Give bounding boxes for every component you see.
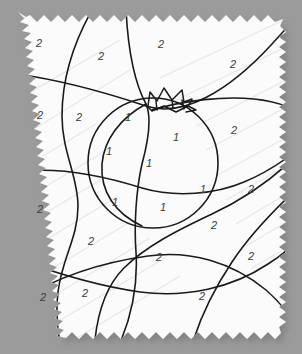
worksheet-canvas: 22222211211122112222222: [0, 0, 302, 354]
region-number: 2: [229, 58, 236, 70]
region-number: 2: [157, 38, 164, 50]
region-number: 1: [200, 183, 206, 195]
region-number: 1: [125, 111, 131, 123]
region-number: 2: [97, 50, 104, 62]
region-number: 1: [106, 145, 112, 157]
region-number: 2: [155, 251, 162, 263]
region-number: 2: [247, 250, 254, 262]
region-number: 1: [146, 157, 152, 169]
region-number: 2: [230, 124, 237, 136]
region-number: 2: [247, 183, 254, 195]
region-number: 2: [198, 290, 205, 302]
region-number: 1: [112, 196, 118, 208]
region-number: 2: [75, 111, 82, 123]
region-number: 2: [87, 235, 94, 247]
region-number: 2: [36, 109, 43, 121]
region-number: 1: [173, 131, 179, 143]
region-number: 2: [39, 291, 46, 303]
coloring-worksheet: 22222211211122112222222: [0, 0, 302, 354]
region-number: 1: [160, 201, 166, 213]
region-number: 2: [210, 219, 217, 231]
region-number: 2: [35, 37, 42, 49]
region-number: 2: [81, 287, 88, 299]
region-number: 2: [36, 203, 43, 215]
